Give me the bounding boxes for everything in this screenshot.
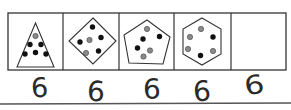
answer-2: 6 xyxy=(86,75,105,109)
cell-1-triangle xyxy=(17,23,54,67)
answer-1: 6 xyxy=(30,72,49,104)
cell-4-hexagon xyxy=(183,18,221,65)
answer-3: 6 xyxy=(143,73,161,106)
cell-3-pentagon xyxy=(124,20,170,64)
worksheet-pattern-puzzle: 6 6 6 6 6 xyxy=(0,0,291,110)
answer-4: 6 xyxy=(192,74,212,108)
cell-2-diamond xyxy=(69,18,116,64)
grid-frame xyxy=(8,13,286,70)
